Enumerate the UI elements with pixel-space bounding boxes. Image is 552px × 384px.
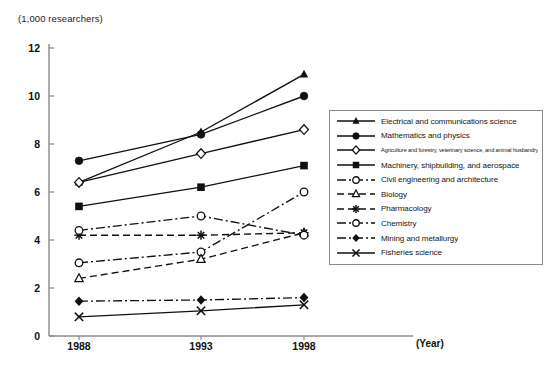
x-tick-label: 1993 — [189, 340, 212, 352]
legend-item-label: Mining and metallurgy — [378, 234, 458, 243]
legend-item-label: Chemistry — [378, 219, 417, 228]
legend-item[interactable]: Chemistry — [330, 216, 542, 231]
legend-item[interactable]: Electrical and communications science — [330, 114, 542, 129]
series-line — [75, 228, 308, 281]
legend-item[interactable]: Machinery, shipbuilding, and aerospace — [330, 158, 542, 173]
legend-item-label: Pharmacology — [378, 204, 432, 213]
legend-item[interactable]: Agriculture and forestry, veterinary sci… — [330, 143, 542, 158]
legend-item-label: Biology — [378, 190, 407, 199]
series-line — [75, 92, 308, 164]
legend-marker-icon — [334, 246, 378, 260]
series-line — [75, 70, 308, 186]
legend-item[interactable]: Mining and metallurgy — [330, 231, 542, 246]
series-line — [75, 301, 308, 321]
series-line — [75, 125, 309, 187]
y-tick-label: 8 — [14, 138, 40, 150]
y-tick-label: 0 — [14, 330, 40, 342]
y-tick-label: 10 — [14, 90, 40, 102]
y-tick-label: 12 — [14, 42, 40, 54]
x-axis-caption: (Year) — [416, 338, 444, 349]
legend-item[interactable]: Civil engineering and architecture — [330, 172, 542, 187]
y-tick-label: 4 — [14, 234, 40, 246]
series-line — [74, 228, 308, 240]
legend-marker-icon — [334, 129, 378, 143]
x-tick-label: 1988 — [67, 340, 90, 352]
legend-marker-icon — [334, 114, 378, 128]
x-tick-label: 1998 — [292, 340, 315, 352]
legend-marker-icon — [334, 187, 378, 201]
researchers-by-field-line-chart: (1,000 researchers) 024681012 1988199319… — [0, 0, 552, 384]
legend-item-label: Machinery, shipbuilding, and aerospace — [378, 161, 519, 170]
legend-item[interactable]: Biology — [330, 187, 542, 202]
legend-marker-icon — [334, 173, 378, 187]
legend-item-label: Civil engineering and architecture — [378, 175, 498, 184]
legend-marker-icon — [334, 158, 378, 172]
series-line — [75, 188, 308, 266]
legend-item[interactable]: Pharmacology — [330, 202, 542, 217]
chart-legend: Electrical and communications scienceMat… — [329, 110, 543, 265]
legend-item-label: Fisheries science — [378, 248, 442, 257]
series-line — [75, 293, 309, 306]
legend-marker-icon — [334, 216, 378, 230]
y-tick-label: 2 — [14, 282, 40, 294]
legend-item-label: Agriculture and forestry, veterinary sci… — [378, 147, 538, 153]
y-tick-label: 6 — [14, 186, 40, 198]
legend-item-label: Mathematics and physics — [378, 131, 470, 140]
legend-marker-icon — [334, 202, 378, 216]
legend-marker-icon — [334, 231, 378, 245]
legend-item[interactable]: Mathematics and physics — [330, 129, 542, 144]
legend-marker-icon — [334, 143, 378, 157]
legend-item[interactable]: Fisheries science — [330, 245, 542, 260]
legend-item-label: Electrical and communications science — [378, 117, 517, 126]
